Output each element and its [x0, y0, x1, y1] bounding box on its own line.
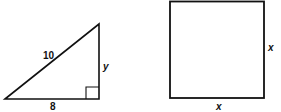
right-angle-marker — [86, 87, 99, 99]
geometry-figure: 10 y 8 x x — [0, 0, 281, 111]
square-right-side-label: x — [267, 42, 274, 53]
square-bottom-side-label: x — [215, 101, 222, 111]
base-label: 8 — [50, 101, 56, 111]
vertical-leg-label: y — [102, 61, 109, 72]
hypotenuse-label: 10 — [43, 50, 55, 61]
right-triangle: 10 y 8 — [5, 24, 109, 111]
square: x x — [170, 2, 274, 112]
